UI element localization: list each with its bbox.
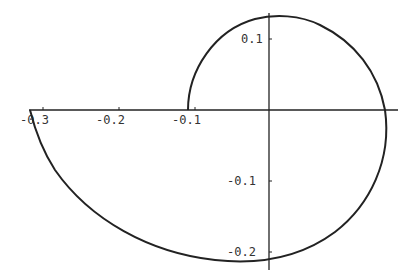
y-tick-label: 0.1 xyxy=(241,32,263,46)
x-tick-label: -0.2 xyxy=(96,113,125,127)
spiral-curve xyxy=(30,16,386,261)
chart-canvas: -0.3 -0.2 -0.1 0.1 -0.1 -0.2 xyxy=(0,0,400,273)
x-tick-label: -0.1 xyxy=(172,113,201,127)
y-tick-label: -0.1 xyxy=(227,174,256,188)
y-tick-label: -0.2 xyxy=(227,245,256,259)
